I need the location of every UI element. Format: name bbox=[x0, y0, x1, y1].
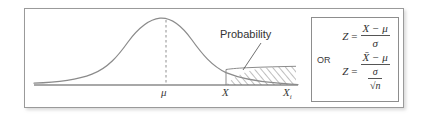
figure-container: μ X Xi Probability OR Z = X − μ σ Z = bbox=[0, 0, 426, 118]
axis-label-xi-base: X bbox=[283, 86, 290, 98]
formula-2-fraction: X̄ − μ σ √n bbox=[361, 51, 390, 91]
formula-2-denominator: σ √n bbox=[361, 64, 390, 91]
formula-2-sigma: σ bbox=[371, 66, 380, 78]
formula-2-sqrt-n: √n bbox=[368, 78, 383, 91]
formula-box: OR Z = X − μ σ Z = X̄ − μ bbox=[311, 17, 399, 102]
formula-2-numerator: X̄ − μ bbox=[361, 51, 390, 64]
or-label: OR bbox=[317, 55, 331, 65]
axis-label-x: X bbox=[222, 86, 229, 98]
axis-label-mu: μ bbox=[161, 86, 167, 98]
formula-1-fraction: X − μ σ bbox=[361, 22, 390, 49]
formula-z-population: Z = X − μ σ bbox=[342, 22, 390, 49]
formula-1-numerator: X − μ bbox=[361, 22, 390, 35]
formula-z-sample-mean: Z = X̄ − μ σ √n bbox=[342, 51, 390, 91]
probability-annotation-label: Probability bbox=[220, 28, 271, 40]
formula-2-inner-fraction: σ √n bbox=[368, 66, 383, 91]
formula-1-equals: = bbox=[351, 30, 357, 42]
formula-list: Z = X − μ σ Z = X̄ − μ σ bbox=[334, 22, 398, 91]
axis-label-xi: Xi bbox=[283, 86, 292, 101]
axis-label-xi-subscript: i bbox=[290, 93, 292, 101]
formula-1-denominator: σ bbox=[361, 35, 390, 49]
formula-1-lhs: Z bbox=[342, 30, 348, 42]
formula-2-equals: = bbox=[351, 65, 357, 77]
formula-2-lhs: Z bbox=[342, 65, 348, 77]
